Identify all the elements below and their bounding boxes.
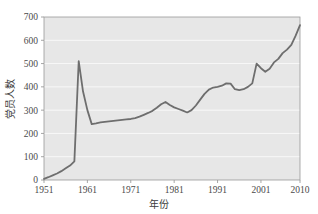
y-axis-title: 党员人数	[4, 79, 16, 119]
x-tick-label: 1991	[208, 185, 227, 195]
y-axis-tick-marks	[41, 17, 44, 180]
x-tick-label: 1981	[165, 185, 184, 195]
x-tick-label: 1961	[78, 185, 97, 195]
y-tick-label: 500	[24, 59, 39, 69]
x-tick-label: 1971	[121, 185, 140, 195]
y-tick-label: 100	[24, 152, 39, 162]
x-axis-tick-marks	[44, 180, 300, 183]
y-tick-label: 200	[24, 129, 39, 139]
y-tick-label: 300	[24, 106, 39, 116]
plot-background	[44, 17, 300, 180]
y-tick-label: 600	[24, 36, 39, 46]
x-tick-label: 1951	[35, 185, 54, 195]
x-tick-label: 2001	[251, 185, 270, 195]
x-tick-label: 2010	[291, 185, 310, 195]
y-axis-tick-labels: 0100200300400500600700	[24, 12, 39, 185]
y-tick-label: 0	[33, 175, 38, 185]
y-tick-label: 400	[24, 82, 39, 92]
y-tick-label: 700	[24, 12, 39, 22]
chart-canvas: 0100200300400500600700 19511961197119811…	[0, 0, 318, 214]
x-axis-tick-labels: 1951196119711981199120012010	[35, 185, 310, 195]
x-axis-title: 年份	[149, 198, 169, 210]
line-chart-figure: 0100200300400500600700 19511961197119811…	[0, 0, 318, 214]
